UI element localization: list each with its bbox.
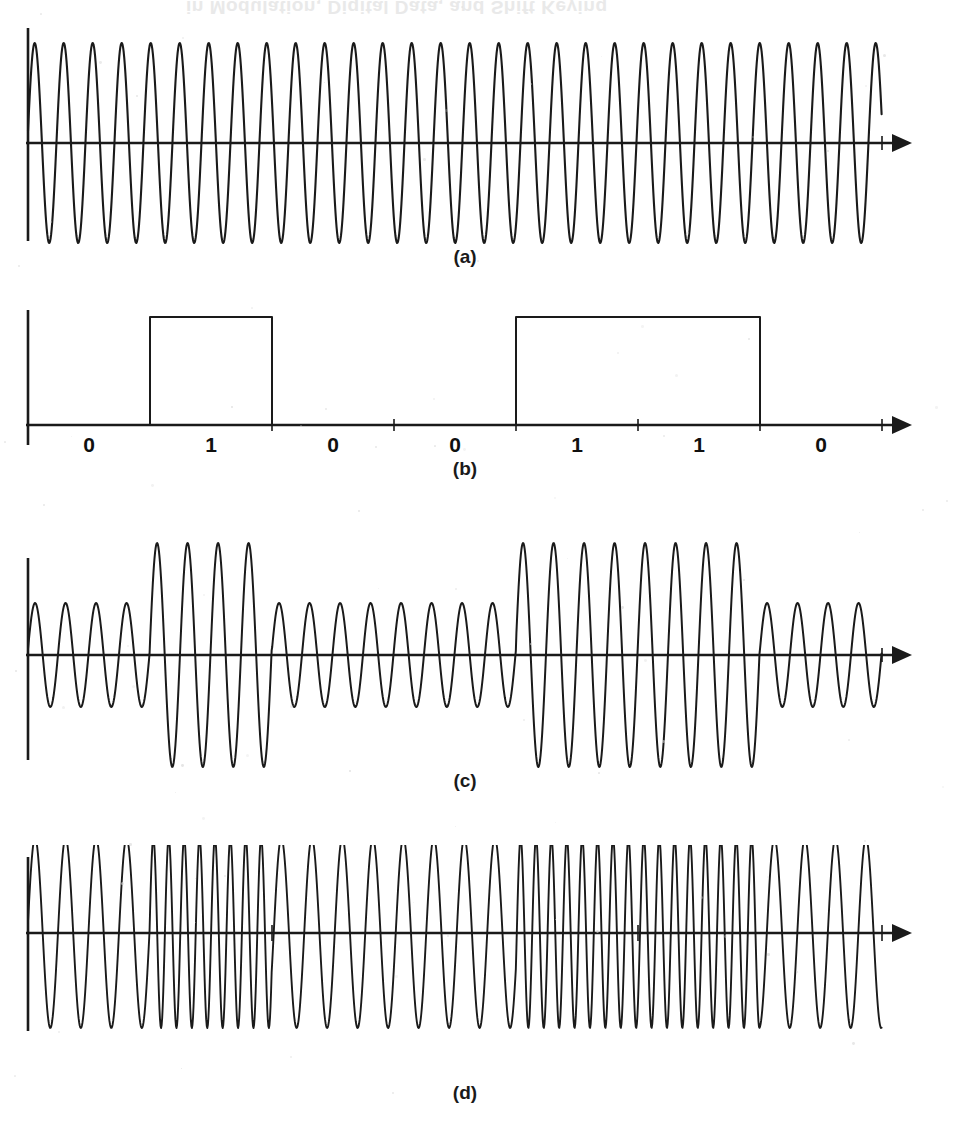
bit-label-5: 1 bbox=[679, 433, 719, 457]
paper-speckle bbox=[43, 504, 45, 506]
bit-label-0: 0 bbox=[69, 433, 109, 457]
carrier-waveform-svg bbox=[0, 16, 954, 248]
paper-speckle bbox=[946, 500, 948, 502]
ask-waveform-svg bbox=[0, 540, 954, 770]
paper-speckle bbox=[942, 786, 944, 788]
paper-speckle bbox=[392, 1092, 394, 1094]
paper-speckle bbox=[40, 13, 42, 15]
paper-speckle bbox=[555, 822, 556, 823]
panel-digital-data bbox=[0, 300, 954, 450]
panel-label-d: (d) bbox=[405, 1082, 525, 1104]
axis-arrow-icon bbox=[892, 416, 912, 434]
paper-speckle bbox=[864, 840, 866, 842]
panel-label-c: (c) bbox=[405, 770, 525, 792]
panel-ask bbox=[0, 540, 954, 770]
axis-arrow-icon bbox=[892, 134, 912, 152]
panel-fsk bbox=[0, 845, 954, 1080]
paper-speckle bbox=[175, 792, 176, 793]
paper-speckle bbox=[461, 6, 463, 8]
fsk-waveform-svg bbox=[0, 845, 954, 1080]
panel-carrier bbox=[0, 16, 954, 248]
fsk-sine-path bbox=[28, 845, 882, 1028]
figure-root: in Modulation, Digital Data, and Shift K… bbox=[0, 0, 954, 1122]
paper-speckle bbox=[922, 509, 924, 511]
bit-label-4: 1 bbox=[557, 433, 597, 457]
bit-label-3: 0 bbox=[435, 433, 475, 457]
axis-arrow-icon bbox=[892, 924, 912, 942]
paper-speckle bbox=[205, 843, 206, 844]
paper-speckle bbox=[202, 817, 205, 820]
paper-speckle bbox=[349, 770, 351, 772]
bit-label-1: 1 bbox=[191, 433, 231, 457]
panel-label-a: (a) bbox=[405, 246, 525, 268]
bit-label-2: 0 bbox=[313, 433, 353, 457]
paper-speckle bbox=[598, 772, 600, 774]
axis-arrow-icon bbox=[892, 646, 912, 664]
digital-data-waveform-svg bbox=[0, 300, 954, 450]
digital-data-path bbox=[28, 317, 882, 425]
paper-speckle bbox=[18, 265, 20, 267]
panel-label-b: (b) bbox=[405, 458, 525, 480]
paper-speckle bbox=[455, 826, 456, 827]
bit-label-6: 0 bbox=[801, 433, 841, 457]
paper-speckle bbox=[859, 532, 860, 533]
paper-speckle bbox=[151, 484, 154, 487]
paper-speckle bbox=[554, 497, 556, 499]
paper-speckle bbox=[358, 510, 360, 512]
